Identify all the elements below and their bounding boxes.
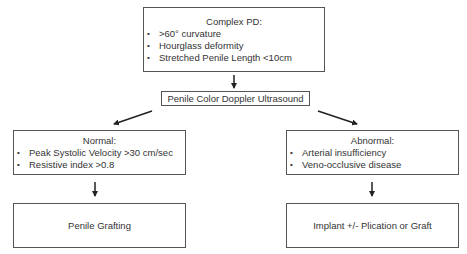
complex-pd-box: Complex PD: >60° curvature Hourglass def… [143, 7, 325, 72]
arrow-doppler-to-normal [114, 111, 152, 124]
criterion-veno-occlusive: Veno-occlusive disease [287, 159, 458, 171]
criterion-penile-length: Stretched Penile Length <10cm [144, 52, 324, 64]
penile-grafting-box: Penile Grafting [13, 203, 186, 248]
abnormal-title: Abnormal: [287, 135, 458, 147]
abnormal-criteria-list: Arterial insufficiency Veno-occlusive di… [287, 147, 458, 171]
complex-pd-criteria-list: >60° curvature Hourglass deformity Stret… [144, 28, 324, 64]
implant-label: Implant +/- Plication or Graft [313, 220, 432, 232]
doppler-label: Penile Color Doppler Ultrasound [167, 93, 303, 105]
normal-title: Normal: [14, 135, 185, 147]
normal-result-box: Normal: Peak Systolic Velocity >30 cm/se… [13, 130, 186, 175]
abnormal-result-box: Abnormal: Arterial insufficiency Veno-oc… [286, 130, 459, 175]
criterion-hourglass: Hourglass deformity [144, 40, 324, 52]
criterion-curvature: >60° curvature [144, 28, 324, 40]
arrow-doppler-to-abnormal [318, 111, 357, 124]
criterion-resistive-index: Resistive index >0.8 [14, 159, 185, 171]
penile-grafting-label: Penile Grafting [68, 220, 131, 232]
complex-pd-title: Complex PD: [144, 16, 324, 28]
implant-box: Implant +/- Plication or Graft [286, 203, 459, 248]
criterion-arterial-insufficiency: Arterial insufficiency [287, 147, 458, 159]
criterion-peak-systolic-velocity: Peak Systolic Velocity >30 cm/sec [14, 147, 185, 159]
doppler-ultrasound-box: Penile Color Doppler Ultrasound [161, 91, 310, 106]
normal-criteria-list: Peak Systolic Velocity >30 cm/sec Resist… [14, 147, 185, 171]
